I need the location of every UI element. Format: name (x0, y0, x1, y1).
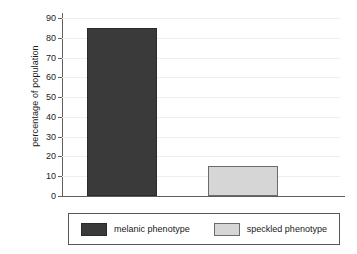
y-axis-tick-label: 60 (46, 73, 56, 82)
tick-mark (58, 137, 62, 138)
legend-swatch-speckled-icon (214, 223, 240, 236)
y-axis-tick-label: 10 (46, 172, 56, 181)
tick-mark (58, 77, 62, 78)
y-axis-tick-label: 90 (46, 13, 56, 22)
bar-speckled (208, 166, 278, 196)
tick-mark (58, 156, 62, 157)
tick-mark (58, 176, 62, 177)
tick-mark (58, 196, 62, 197)
tick-mark (58, 117, 62, 118)
y-axis-tick-label: 20 (46, 152, 56, 161)
gridline (62, 18, 340, 19)
bar-melanic (87, 28, 157, 196)
legend-swatch-melanic-icon (81, 223, 107, 236)
legend-item-speckled: speckled phenotype (214, 223, 327, 236)
tick-mark (58, 58, 62, 59)
tick-mark (58, 38, 62, 39)
chart-legend: melanic phenotype speckled phenotype (68, 213, 340, 245)
tick-mark (58, 18, 62, 19)
y-axis-tick-label: 80 (46, 33, 56, 42)
y-axis-tick-label: 70 (46, 53, 56, 62)
y-axis-tick-label: 40 (46, 112, 56, 121)
y-axis-title: percentage of population (28, 0, 42, 196)
y-axis-tick-label: 50 (46, 93, 56, 102)
y-axis-tick-label: 0 (51, 192, 56, 201)
legend-label-speckled: speckled phenotype (247, 224, 327, 234)
x-axis-baseline (62, 196, 345, 197)
legend-item-melanic: melanic phenotype (81, 223, 190, 236)
plot-area: 0102030405060708090 (62, 14, 340, 196)
bar-chart-figure: percentage of population 010203040506070… (0, 0, 357, 254)
tick-mark (58, 97, 62, 98)
y-axis-tick-label: 30 (46, 132, 56, 141)
legend-label-melanic: melanic phenotype (114, 224, 190, 234)
